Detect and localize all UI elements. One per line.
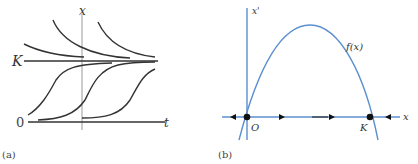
- panel-a-caption: (a): [2, 149, 16, 160]
- panel-b: x' x f(x) O K (b): [218, 6, 409, 160]
- panel-a-zero-label: 0: [16, 115, 24, 130]
- figure-canvas: x t K 0 (a) x' x f(x) O K (b): [0, 0, 418, 164]
- panel-b-f-label: f(x): [345, 41, 363, 52]
- panel-a: x t K 0 (a): [2, 4, 169, 160]
- panel-a-curve-below-1: [28, 63, 112, 115]
- arrow-right-icon: [329, 114, 335, 120]
- panel-a-y-label: x: [79, 4, 86, 18]
- arrow-left-icon: [230, 114, 236, 120]
- panel-b-y-label: x': [252, 6, 260, 16]
- panel-b-x-label: x: [403, 111, 409, 122]
- panel-b-K-point: [367, 114, 374, 121]
- panel-a-curve-below-2: [38, 62, 155, 120]
- panel-a-curve-below-3: [82, 69, 155, 118]
- panel-b-caption: (b): [218, 149, 232, 160]
- panel-b-origin-point: [244, 114, 251, 121]
- panel-b-K-label: K: [359, 122, 368, 133]
- panel-a-K-label: K: [11, 53, 24, 69]
- panel-a-curve-above-2: [53, 20, 130, 58]
- arrow-right-icon: [279, 114, 285, 120]
- panel-b-origin-label: O: [251, 122, 259, 133]
- panel-a-x-label: t: [164, 116, 169, 130]
- panel-a-curve-above-3: [98, 22, 155, 57]
- arrow-left-icon: [385, 114, 391, 120]
- panel-a-curve-above-1: [24, 44, 84, 57]
